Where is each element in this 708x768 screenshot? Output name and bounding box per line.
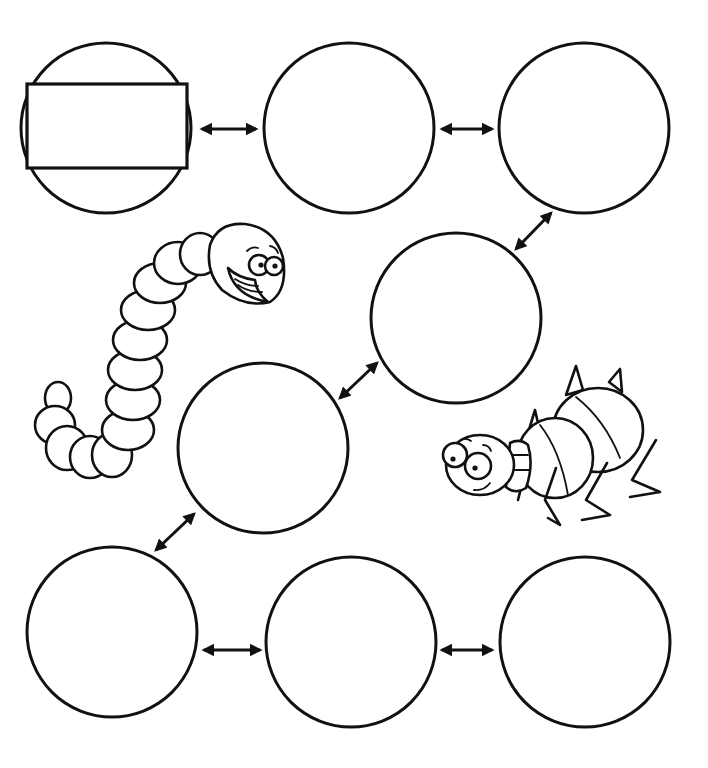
- node-6: [27, 547, 197, 717]
- worm-pupil: [258, 262, 263, 267]
- diagram-canvas: [0, 0, 708, 768]
- double-arrow-3-4: [516, 213, 551, 249]
- bug-pupil: [472, 465, 477, 470]
- node-8: [500, 557, 670, 727]
- worm-pupil: [272, 263, 277, 268]
- node-5: [178, 363, 348, 533]
- node-4: [371, 233, 541, 403]
- node-7: [266, 557, 436, 727]
- bug-eye-left: [443, 443, 467, 467]
- node-2: [264, 43, 434, 213]
- double-arrow-4-5: [340, 363, 377, 398]
- bug-pupil: [450, 456, 455, 461]
- node-3: [499, 43, 669, 213]
- node-1: [21, 43, 191, 213]
- bug-eye-right: [465, 453, 491, 479]
- double-arrow-5-6: [156, 514, 194, 550]
- label-box[interactable]: [27, 84, 187, 168]
